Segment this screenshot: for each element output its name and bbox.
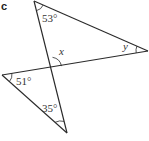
angle-arc-x	[53, 57, 62, 66]
angle-arc-right	[136, 46, 137, 53]
angle-label-left: 51°	[16, 75, 31, 87]
angle-label-x: x	[58, 45, 64, 57]
angle-arc-left	[9, 73, 12, 81]
angle-label-bottom: 35°	[42, 102, 57, 114]
part-label: c	[1, 0, 7, 12]
angle-label-y: y	[122, 40, 128, 52]
angle-arc-bottom	[55, 121, 64, 122]
line-left-right	[2, 51, 148, 75]
geometry-diagram: c 53° y x 51° 35°	[0, 0, 149, 141]
angle-arc-top	[36, 5, 43, 11]
edge-top-right	[34, 1, 148, 51]
angle-label-top: 53°	[42, 12, 57, 24]
